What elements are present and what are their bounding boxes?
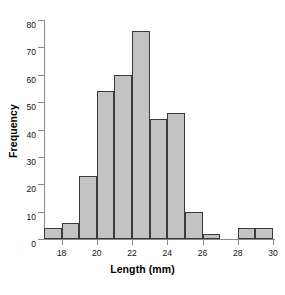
histogram-bar bbox=[255, 228, 273, 239]
histogram-bar bbox=[62, 223, 80, 239]
histogram-bar bbox=[114, 75, 132, 239]
histogram-bar bbox=[203, 234, 221, 239]
y-tick-label-text: 10 bbox=[12, 212, 36, 222]
x-tick-26 bbox=[203, 239, 204, 245]
histogram-bar bbox=[97, 91, 115, 239]
histogram-bar bbox=[150, 119, 168, 239]
x-tick-20 bbox=[97, 239, 98, 245]
plot-area bbox=[44, 20, 273, 239]
x-tick-30 bbox=[273, 239, 274, 245]
y-tick-0 bbox=[38, 239, 44, 240]
x-axis-label: Length (mm) bbox=[0, 263, 285, 275]
x-tick-label-24: 24 bbox=[155, 248, 179, 258]
x-tick-24 bbox=[167, 239, 168, 245]
x-tick-28 bbox=[238, 239, 239, 245]
histogram-bar bbox=[238, 228, 256, 239]
x-tick-18 bbox=[62, 239, 63, 245]
y-axis-label: Frequency bbox=[7, 81, 19, 181]
histogram-bar bbox=[44, 228, 62, 239]
histogram-figure: 01020304050607080 18202224262830 Frequen… bbox=[0, 0, 285, 295]
histogram-bar bbox=[79, 176, 97, 239]
x-axis-line bbox=[44, 239, 275, 240]
y-tick-label-text: 70 bbox=[12, 47, 36, 57]
histogram-bar bbox=[167, 113, 185, 239]
x-tick-label-26: 26 bbox=[191, 248, 215, 258]
x-tick-label-28: 28 bbox=[226, 248, 250, 258]
histogram-bar bbox=[132, 31, 150, 239]
y-tick-label-text: 20 bbox=[12, 184, 36, 194]
y-tick-label-text: 0 bbox=[12, 239, 36, 249]
x-tick-label-18: 18 bbox=[50, 248, 74, 258]
histogram-bar bbox=[185, 212, 203, 239]
x-tick-label-30: 30 bbox=[261, 248, 285, 258]
x-tick-22 bbox=[132, 239, 133, 245]
x-tick-label-22: 22 bbox=[120, 248, 144, 258]
y-tick-label-text: 80 bbox=[12, 20, 36, 30]
x-tick-label-20: 20 bbox=[85, 248, 109, 258]
